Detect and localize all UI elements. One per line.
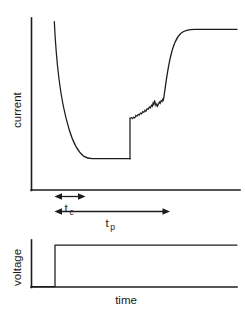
tp-label-base: t: [105, 217, 109, 229]
current-rise-plateau-trace: [164, 29, 237, 97]
voltage-y-axis-label: voltage: [11, 249, 23, 286]
tp-dimension: t p: [55, 208, 171, 231]
timing-annotations: t c t p: [55, 193, 171, 231]
figure-container: current t c: [0, 0, 245, 310]
voltage-panel: voltage time: [11, 240, 237, 306]
chart-canvas: current t c: [0, 0, 245, 310]
tc-arrow-left-head: [55, 193, 63, 200]
tc-arrow-right-head: [78, 193, 86, 200]
current-decay-trace: [54, 22, 130, 159]
tp-arrow-left-head: [55, 208, 63, 215]
current-panel: current: [11, 18, 240, 191]
tp-arrow-right-head: [163, 208, 171, 215]
voltage-step-trace: [32, 245, 238, 287]
current-y-axis-label: current: [11, 91, 23, 128]
tp-label-subscript: p: [110, 222, 115, 232]
current-noisy-growth-trace: [130, 97, 164, 118]
voltage-x-axis-label: time: [115, 294, 137, 306]
